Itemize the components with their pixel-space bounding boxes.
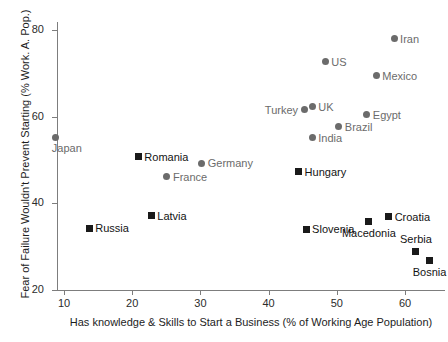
data-point-label: Croatia: [395, 212, 430, 223]
x-tick-label: 60: [385, 297, 425, 309]
data-point-marker: [322, 58, 329, 65]
data-point-marker: [309, 103, 316, 110]
y-axis-line: [57, 22, 58, 290]
data-point-label: Germany: [208, 158, 253, 169]
x-tick-label: 10: [44, 297, 84, 309]
data-point-marker: [163, 173, 170, 180]
data-point-marker: [309, 134, 316, 141]
data-point-label: Japan: [52, 143, 82, 154]
data-point-label: Iran: [400, 34, 419, 45]
x-tick-mark: [132, 290, 133, 295]
data-point-label: Bosnia: [413, 267, 447, 278]
x-tick-label: 20: [112, 297, 152, 309]
data-point-marker: [52, 134, 59, 141]
data-point-label: Serbia: [400, 234, 432, 245]
data-point-label: India: [318, 133, 342, 144]
y-tick-mark: [52, 290, 57, 291]
x-tick-mark: [269, 290, 270, 295]
x-tick-mark: [64, 290, 65, 295]
data-point-marker: [385, 213, 392, 220]
data-point-marker: [412, 248, 419, 255]
data-point-label: Slovenia: [312, 224, 354, 235]
data-point-marker: [391, 35, 398, 42]
data-point-label: Brazil: [345, 122, 373, 133]
data-point-label: US: [331, 57, 346, 68]
data-point-marker: [373, 72, 380, 79]
data-point-label: Russia: [95, 223, 129, 234]
x-axis-line: [57, 290, 445, 291]
y-tick-mark: [52, 117, 57, 118]
data-point-label: Egypt: [373, 110, 401, 121]
data-point-marker: [426, 257, 433, 264]
data-point-label: Mexico: [382, 71, 417, 82]
data-point-marker: [135, 153, 142, 160]
data-point-marker: [295, 168, 302, 175]
data-point-marker: [301, 106, 308, 113]
data-point-label: Latvia: [157, 211, 186, 222]
data-point-label: Hungary: [305, 167, 347, 178]
x-tick-mark: [337, 290, 338, 295]
y-tick-mark: [52, 203, 57, 204]
data-point-marker: [303, 226, 310, 233]
scatter-chart: 20406080 102030405060 JapanRomaniaGerman…: [0, 0, 448, 342]
data-point-label: UK: [318, 102, 333, 113]
data-point-marker: [148, 212, 155, 219]
data-point-label: Turkey: [265, 105, 298, 116]
data-point-marker: [335, 123, 342, 130]
data-point-marker: [86, 225, 93, 232]
y-axis-title: Fear of Failure Wouldn't Prevent Startin…: [19, 9, 31, 299]
x-tick-label: 50: [317, 297, 357, 309]
data-point-marker: [198, 160, 205, 167]
x-tick-mark: [405, 290, 406, 295]
data-point-label: France: [173, 172, 207, 183]
data-point-marker: [365, 218, 372, 225]
data-point-label: Romania: [144, 152, 188, 163]
data-point-marker: [363, 111, 370, 118]
y-tick-mark: [52, 30, 57, 31]
x-axis-title: Has knowledge & Skills to Start a Busine…: [57, 316, 445, 328]
x-tick-label: 30: [180, 297, 220, 309]
x-tick-label: 40: [249, 297, 289, 309]
x-tick-mark: [200, 290, 201, 295]
